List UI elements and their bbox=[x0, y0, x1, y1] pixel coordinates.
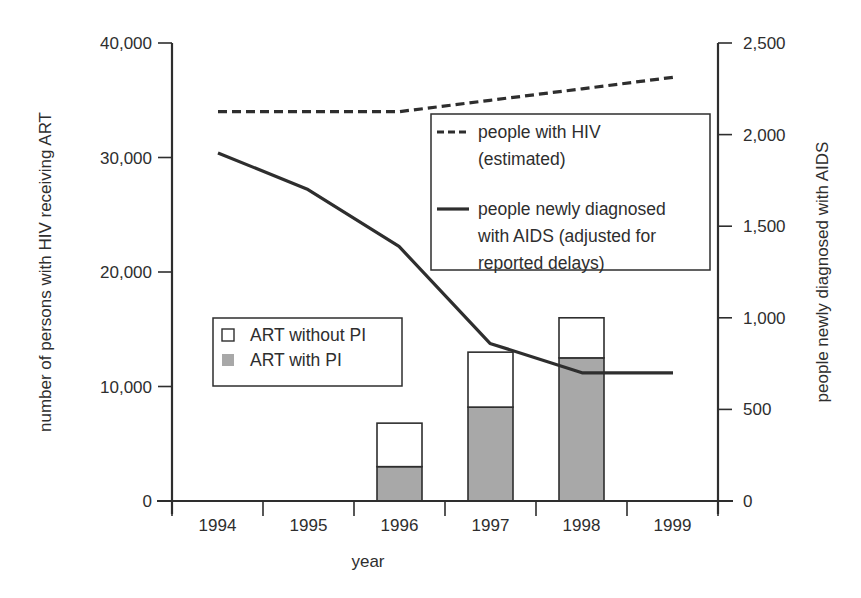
chart-canvas: 010,00020,00030,00040,00005001,0001,5002… bbox=[0, 0, 861, 598]
y-left-tick-label: 10,000 bbox=[100, 378, 152, 397]
y-right-tick-label: 2,000 bbox=[743, 126, 786, 145]
legend-line-label: (estimated) bbox=[478, 149, 566, 169]
legend-lines: people with HIV(estimated)people newly d… bbox=[431, 114, 710, 273]
y-right-tick-label: 500 bbox=[743, 400, 771, 419]
bar-segment-art-without-pi-1998 bbox=[559, 318, 604, 358]
y-left-tick-label: 40,000 bbox=[100, 34, 152, 53]
legend-line-label: people with HIV bbox=[478, 122, 601, 142]
legend-swatch-art-with-pi-icon bbox=[222, 354, 234, 366]
legend-bar-label: ART without PI bbox=[250, 325, 366, 345]
legend-line-label: with AIDS (adjusted for bbox=[477, 226, 656, 246]
x-tick-label: 1995 bbox=[290, 516, 328, 535]
x-tick-label: 1994 bbox=[199, 516, 237, 535]
y-right-tick-label: 1,500 bbox=[743, 217, 786, 236]
legend-swatch-art-without-pi-icon bbox=[222, 329, 234, 341]
y-axis-right-title: people newly diagnosed with AIDS bbox=[813, 142, 832, 403]
bar-segment-art-with-pi-1997 bbox=[468, 407, 513, 501]
line-people-with-hiv bbox=[218, 77, 673, 111]
x-tick-label: 1996 bbox=[381, 516, 419, 535]
y-right-tick-label: 1,000 bbox=[743, 309, 786, 328]
bar-segment-art-without-pi-1997 bbox=[468, 352, 513, 407]
bar-segment-art-with-pi-1998 bbox=[559, 358, 604, 501]
y-left-tick-label: 20,000 bbox=[100, 263, 152, 282]
x-tick-label: 1998 bbox=[563, 516, 601, 535]
legend-line-label: reported delays) bbox=[478, 253, 604, 273]
x-tick-label: 1997 bbox=[472, 516, 510, 535]
bar-series bbox=[377, 318, 604, 501]
axes: 010,00020,00030,00040,00005001,0001,5002… bbox=[100, 34, 786, 535]
x-axis-title: year bbox=[351, 552, 384, 571]
y-left-tick-label: 30,000 bbox=[100, 149, 152, 168]
y-right-tick-label: 0 bbox=[743, 492, 752, 511]
bar-segment-art-with-pi-1996 bbox=[377, 467, 422, 501]
y-right-tick-label: 2,500 bbox=[743, 34, 786, 53]
y-left-tick-label: 0 bbox=[143, 492, 152, 511]
bar-segment-art-without-pi-1996 bbox=[377, 423, 422, 467]
legend-bar-label: ART with PI bbox=[250, 350, 342, 370]
x-tick-label: 1999 bbox=[654, 516, 692, 535]
y-axis-left-title: number of persons with HIV receiving ART bbox=[36, 112, 55, 432]
legend-bars: ART without PIART with PI bbox=[213, 318, 402, 386]
legend-line-label: people newly diagnosed bbox=[478, 199, 666, 219]
